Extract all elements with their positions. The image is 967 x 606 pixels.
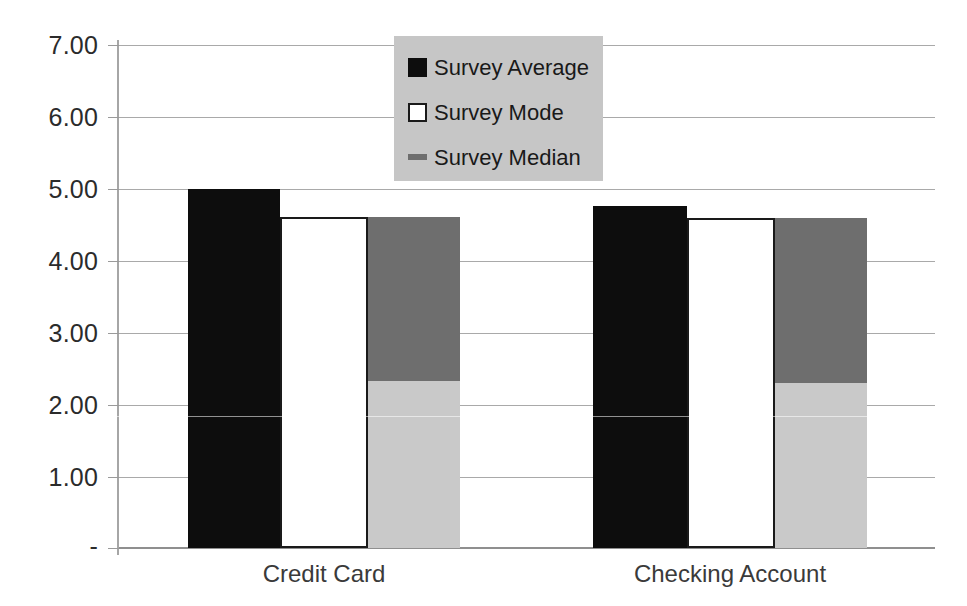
bar-credit-card-survey-median[interactable] (368, 217, 460, 548)
legend-label-survey-median: Survey Median (434, 147, 581, 169)
legend-label-survey-average: Survey Average (434, 57, 589, 79)
chart-legend: Survey Average Survey Mode Survey Median (394, 36, 603, 181)
x-axis-label-credit-card: Credit Card (263, 562, 386, 586)
y-axis-label-4: 4.00 (18, 249, 98, 274)
y-axis-label-2: 2.00 (18, 393, 98, 418)
legend-item-survey-average[interactable]: Survey Average (408, 45, 603, 90)
y-axis-label-3: 3.00 (18, 321, 98, 346)
y-tick-0 (108, 548, 119, 549)
legend-item-survey-mode[interactable]: Survey Mode (408, 90, 603, 135)
legend-item-survey-median[interactable]: Survey Median (408, 135, 603, 180)
bar-credit-card-survey-mode[interactable] (280, 217, 368, 548)
y-axis-label-5: 5.00 (18, 177, 98, 202)
bar-checking-account-survey-average[interactable] (593, 206, 687, 548)
bar-credit-card-median-upper-segment (368, 217, 460, 381)
bar-credit-card-survey-average[interactable] (188, 189, 280, 548)
y-axis-label-6: 6.00 (18, 105, 98, 130)
legend-swatch-filled-square-icon (408, 58, 427, 77)
bar-checking-account-survey-median[interactable] (775, 218, 867, 548)
bar-checking-account-survey-mode[interactable] (687, 218, 775, 548)
bar-chart: 7.00 6.00 5.00 4.00 3.00 2.00 1.00 - Cre… (0, 0, 967, 606)
x-axis-label-checking-account: Checking Account (634, 562, 826, 586)
bar-checking-account-median-upper-segment (775, 218, 867, 383)
legend-label-survey-mode: Survey Mode (434, 102, 564, 124)
y-axis-label-7: 7.00 (18, 33, 98, 58)
y-axis-label-1: 1.00 (18, 465, 98, 490)
legend-swatch-outlined-square-icon (408, 103, 427, 122)
y-axis-label-0: - (18, 534, 98, 559)
legend-swatch-dash-icon (408, 148, 427, 167)
